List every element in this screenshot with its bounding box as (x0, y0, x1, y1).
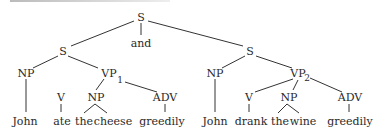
node-left-np: NP (17, 67, 35, 80)
edge-right-s-np (222, 56, 245, 68)
edge-root-right-s (148, 21, 243, 46)
node-left-adv: ADV (152, 91, 179, 104)
leaf-left-cheese: cheese (94, 115, 132, 128)
node-root-s: S (137, 11, 145, 24)
leaf-left-greedily: greedily (139, 115, 185, 128)
edge-root-left-s (71, 21, 134, 46)
node-left-s: S (59, 45, 67, 58)
node-left-vp: VP (100, 67, 117, 80)
leaf-left-ate: ate (53, 115, 71, 128)
node-left-vp-subscript: 1 (117, 75, 123, 85)
edge-left-s-vp (68, 56, 98, 68)
edge-right-np-the (278, 104, 287, 113)
tree-nodes: S and S NP VP 1 V NP ADV S NP VP 2 V NP … (17, 11, 363, 104)
edge-left-np-cheese (95, 104, 107, 113)
leaf-left-the: the (75, 115, 93, 128)
edge-left-s-np (33, 56, 58, 68)
node-left-v: V (56, 91, 66, 104)
edge-left-vp-np (96, 79, 104, 90)
edge-right-np-wine (287, 104, 299, 113)
syntax-tree: S and S NP VP 1 V NP ADV S NP VP 2 V NP … (0, 0, 384, 139)
edge-right-s-vp (256, 56, 292, 68)
leaf-right-drank: drank (235, 115, 268, 128)
node-right-obj-np: NP (280, 91, 298, 104)
node-right-adv: ADV (337, 91, 364, 104)
leaf-right-wine: wine (290, 115, 317, 128)
leaf-left-john: John (11, 115, 37, 128)
node-right-np: NP (206, 67, 224, 80)
node-conjunction: and (131, 37, 152, 50)
tree-leaves: John ate the cheese greedily John drank … (11, 115, 373, 128)
leaf-right-john: John (201, 115, 227, 128)
edge-left-np-the (84, 104, 95, 113)
edge-right-vp-adv (310, 78, 342, 92)
node-right-v: V (244, 91, 254, 104)
node-right-vp-subscript: 2 (304, 73, 310, 83)
edge-right-vp-np (293, 80, 298, 90)
node-right-s: S (246, 45, 254, 58)
leaf-right-the: the (271, 115, 289, 128)
node-left-obj-np: NP (87, 91, 105, 104)
leaf-right-greedily: greedily (327, 115, 373, 128)
